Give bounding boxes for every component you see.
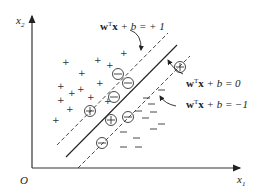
equation-hyperplane: wTx + b = 0 (186, 77, 241, 89)
x-axis-label: x1 (236, 173, 245, 188)
y-axis-label: x2 (15, 14, 25, 29)
svg-text:+: + (96, 78, 104, 88)
svg-text:+: + (57, 81, 65, 91)
svg-text:+: + (62, 57, 70, 67)
svg-text:+: + (106, 60, 114, 70)
svg-text:+: + (120, 48, 128, 58)
arrow-negative-margin (160, 96, 176, 106)
svm-diagram: x2 x1 O + + + + + + + + + + + + + + (0, 0, 257, 193)
svg-text:+: + (77, 84, 85, 94)
equation-positive-margin: wTx + b = + 1 (100, 20, 165, 32)
svg-text:+: + (68, 88, 76, 98)
svg-text:+: + (57, 95, 65, 105)
negative-points (120, 90, 165, 147)
equation-negative-margin: wTx + b = −1 (186, 98, 248, 110)
arrow-positive-margin (130, 30, 141, 50)
svg-text:+: + (94, 55, 102, 65)
svg-text:+: + (66, 104, 74, 114)
svg-text:+: + (87, 92, 95, 102)
support-vectors (85, 62, 186, 149)
negative-margin-line (78, 56, 190, 168)
svg-text:+: + (52, 115, 60, 125)
svg-text:+: + (78, 68, 86, 78)
origin-label: O (20, 174, 28, 186)
hyperplane-line (66, 45, 177, 157)
